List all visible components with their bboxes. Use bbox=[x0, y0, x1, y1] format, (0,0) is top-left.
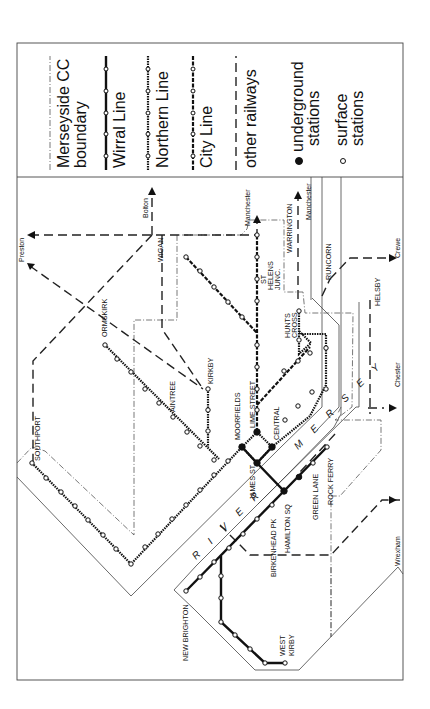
legend-label-boundary-1: Merseyside CC bbox=[55, 59, 72, 168]
station-hamilton-sq bbox=[281, 488, 287, 494]
underground-station-icon bbox=[296, 158, 303, 165]
merseyside-rail-map: Merseyside CC boundary Wirral Line North… bbox=[0, 0, 430, 709]
legend-label-underground-1: underground bbox=[289, 61, 306, 152]
legend-item-other-railways: other railways bbox=[236, 56, 259, 170]
label-west: WEST bbox=[278, 635, 287, 656]
label-helsby: HELSBY bbox=[373, 277, 382, 306]
label-aintree: AINTREE bbox=[168, 381, 177, 412]
arrow-bolton-icon bbox=[148, 187, 156, 195]
legend-label-other: other railways bbox=[242, 69, 259, 168]
merseyside-boundary bbox=[17, 220, 381, 637]
label-manchester-2: Manchester bbox=[305, 183, 312, 220]
label-birkenhead-pk: BIRKENHEAD PK bbox=[269, 518, 278, 577]
label-runcorn: RUNCORN bbox=[324, 243, 333, 280]
legend-label-surface-1: surface bbox=[333, 93, 350, 146]
other-railways bbox=[30, 190, 400, 555]
label-crewe: Crewe bbox=[394, 238, 401, 258]
label-southport: SOUTHPORT bbox=[33, 415, 42, 461]
label-central: CENTRAL bbox=[272, 406, 281, 440]
legend-label-surface-2: stations bbox=[349, 91, 366, 146]
station-central bbox=[269, 444, 275, 450]
surface-station-icon bbox=[341, 159, 346, 164]
legend-item-underground: underground stations bbox=[289, 61, 322, 164]
label-chester: Chester bbox=[394, 362, 401, 387]
label-new-brighton: NEW BRIGHTON bbox=[181, 604, 190, 661]
label-kirkby: KIRKBY bbox=[206, 357, 215, 384]
legend-label-boundary-2: boundary bbox=[72, 101, 89, 168]
legend: Merseyside CC boundary Wirral Line North… bbox=[50, 56, 366, 170]
label-bolton: Bolton bbox=[142, 198, 149, 218]
station-moorfields bbox=[239, 444, 245, 450]
legend-item-surface: surface stations bbox=[333, 91, 366, 164]
arrow-wrexham-icon bbox=[389, 496, 397, 504]
label-moorfields: MOORFIELDS bbox=[233, 392, 242, 440]
northern-line bbox=[32, 311, 326, 564]
label-warrington: WARRINGTON bbox=[285, 203, 294, 253]
label-hamilton-sq: HAMILTON SQ bbox=[283, 504, 292, 553]
legend-item-city: City Line bbox=[191, 56, 215, 170]
arrow-manchester-2-icon bbox=[294, 191, 302, 199]
legend-label-city: City Line bbox=[198, 106, 215, 168]
label-wrexham: Wrexham bbox=[394, 536, 401, 566]
legend-item-northern: Northern Line bbox=[146, 56, 171, 170]
label-kirby: KIRBY bbox=[287, 634, 296, 656]
legend-label-underground-2: stations bbox=[305, 91, 322, 146]
legend-label-wirral: Wirral Line bbox=[111, 91, 128, 168]
arrow-manchester-icon bbox=[253, 215, 261, 223]
label-green-lane: GREEN LANE bbox=[311, 473, 320, 520]
label-james-st: JAMES ST bbox=[248, 464, 257, 500]
station-lime-street bbox=[254, 429, 260, 435]
label-cross: CROSS bbox=[290, 312, 299, 338]
label-junc: JUNC. bbox=[273, 269, 282, 290]
arrow-preston-icon bbox=[27, 231, 35, 239]
label-preston: Preston bbox=[18, 238, 25, 262]
station-markers bbox=[30, 233, 329, 665]
arrow-chester-icon bbox=[389, 404, 397, 412]
label-ormskirk: ORMSKIRK bbox=[100, 298, 109, 337]
label-manchester: Manchester bbox=[244, 189, 251, 226]
label-rock-ferry: ROCK FERRY bbox=[326, 458, 335, 505]
legend-label-northern: Northern Line bbox=[154, 71, 171, 168]
label-wigan: WIGAN bbox=[156, 238, 165, 262]
legend-item-wirral: Wirral Line bbox=[104, 56, 128, 170]
legend-item-boundary: Merseyside CC boundary bbox=[50, 56, 89, 170]
label-lime-street: LIME STREET bbox=[248, 380, 257, 428]
coastline bbox=[17, 177, 403, 670]
